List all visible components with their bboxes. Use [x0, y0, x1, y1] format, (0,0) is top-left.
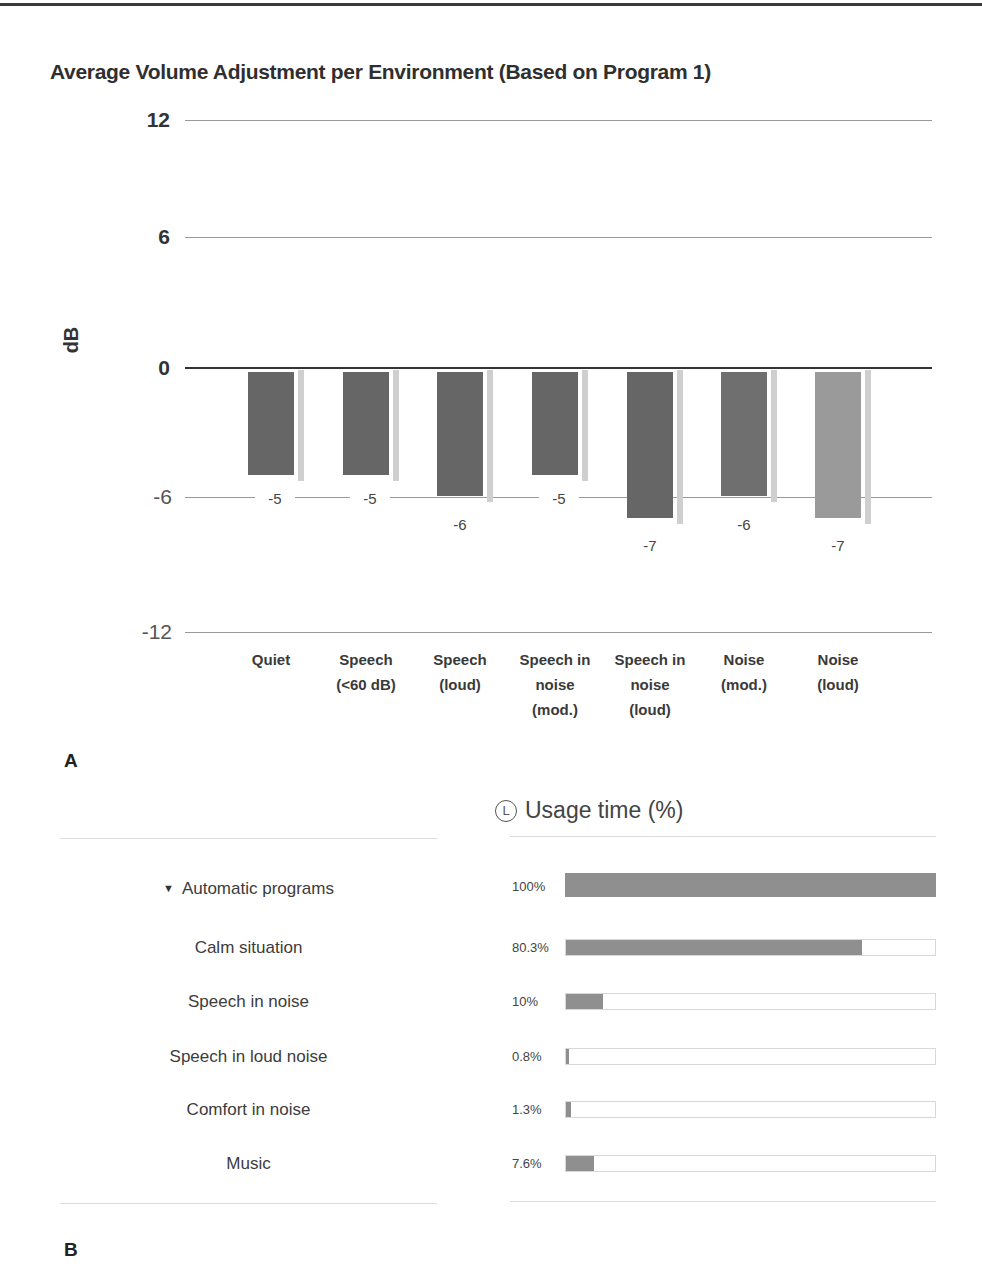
usage-bar	[565, 1048, 936, 1065]
top-border	[0, 3, 982, 6]
program-group-label: Automatic programs	[182, 879, 334, 898]
program-name[interactable]: Music	[60, 1154, 437, 1174]
bar-shadow	[582, 370, 588, 481]
usage-value: 0.8%	[512, 1049, 562, 1065]
bar-shadow	[771, 370, 777, 502]
bar-value-label: -5	[350, 490, 390, 508]
gridline	[185, 237, 932, 238]
program-name[interactable]: Comfort in noise	[60, 1100, 437, 1120]
bar-shadow	[393, 370, 399, 481]
program-name[interactable]: Speech in loud noise	[60, 1047, 437, 1067]
divider	[60, 838, 437, 839]
usage-bar	[565, 993, 936, 1010]
gridline	[185, 632, 932, 633]
usage-value: 10%	[512, 994, 562, 1010]
x-category-label: Speech (loud)	[410, 647, 510, 697]
usage-value: 80.3%	[512, 940, 562, 956]
usage-bar	[565, 1155, 936, 1172]
chart-title: Average Volume Adjustment per Environmen…	[50, 60, 711, 84]
bar-shadow	[487, 370, 493, 502]
program-name[interactable]: Calm situation	[60, 938, 437, 958]
y-tick-label: -12	[112, 620, 172, 644]
program-name[interactable]: Speech in noise	[60, 992, 437, 1012]
usage-bar-fill	[565, 873, 936, 897]
bar	[627, 372, 673, 518]
usage-value: 7.6%	[512, 1156, 562, 1172]
bar	[721, 372, 767, 496]
panel-label-b: B	[64, 1239, 78, 1261]
usage-bar-fill	[566, 1049, 569, 1064]
caret-down-icon[interactable]: ▼	[163, 878, 174, 898]
bar	[815, 372, 861, 518]
bar	[343, 372, 389, 475]
bar	[532, 372, 578, 475]
zero-axis-line	[185, 367, 932, 369]
program-group-automatic[interactable]: ▼Automatic programs	[60, 878, 437, 899]
bar-value-label: -6	[440, 516, 480, 534]
usage-time-header: L Usage time (%)	[495, 797, 683, 824]
usage-value: 100%	[512, 879, 562, 895]
y-tick-label: -6	[112, 485, 172, 509]
y-tick-label: 0	[110, 356, 170, 380]
usage-bar-fill	[566, 1156, 594, 1171]
bar-value-label: -7	[818, 537, 858, 555]
gridline	[185, 120, 932, 121]
clock-l-icon: L	[495, 800, 517, 822]
usage-value: 1.3%	[512, 1102, 562, 1118]
usage-bar	[565, 939, 936, 956]
x-category-label: Noise (loud)	[788, 647, 888, 697]
x-category-label: Quiet	[221, 647, 321, 672]
y-tick-label: 6	[110, 225, 170, 249]
usage-time-title: Usage time (%)	[525, 797, 683, 824]
x-category-label: Noise (mod.)	[694, 647, 794, 697]
bar-value-label: -5	[255, 490, 295, 508]
divider	[60, 1203, 437, 1204]
usage-bar	[565, 873, 936, 897]
x-category-label: Speech in noise (mod.)	[505, 647, 605, 722]
bar-shadow	[298, 370, 304, 481]
usage-bar-fill	[566, 1102, 571, 1117]
divider	[510, 836, 936, 837]
bar-shadow	[677, 370, 683, 524]
bar	[248, 372, 294, 475]
bar-value-label: -6	[724, 516, 764, 534]
bar-value-label: -7	[630, 537, 670, 555]
y-axis-label: dB	[56, 325, 86, 355]
bar-value-label: -5	[539, 490, 579, 508]
divider	[510, 1201, 936, 1202]
panel-label-a: A	[64, 750, 78, 772]
usage-bar-fill	[566, 994, 603, 1009]
y-tick-label: 12	[110, 108, 170, 132]
x-category-label: Speech in noise (loud)	[600, 647, 700, 722]
x-category-label: Speech (<60 dB)	[316, 647, 416, 697]
usage-bar-fill	[566, 940, 862, 955]
usage-bar	[565, 1101, 936, 1118]
bar	[437, 372, 483, 496]
bar-shadow	[865, 370, 871, 524]
